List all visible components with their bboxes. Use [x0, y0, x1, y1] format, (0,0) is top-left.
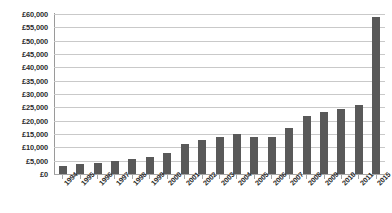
- x-label-slot: 2007: [280, 179, 297, 213]
- y-axis-tick-label: £45,000: [22, 50, 48, 59]
- bar-slot: [263, 14, 280, 174]
- bar-slot: [315, 14, 332, 174]
- bar-slot: [280, 14, 297, 174]
- bar-slot: [298, 14, 315, 174]
- bar-chart: £0£5,000£10,000£15,000£20,000£25,000£30,…: [0, 0, 392, 213]
- bar[interactable]: [216, 137, 224, 174]
- bars-layer: [54, 14, 385, 174]
- y-axis: £0£5,000£10,000£15,000£20,000£25,000£30,…: [0, 0, 52, 213]
- x-label-slot: 1995: [71, 179, 88, 213]
- bar-slot: [350, 14, 367, 174]
- y-axis-tick-label: £10,000: [22, 143, 48, 152]
- x-axis: 1994199519961997199819992000200120022003…: [54, 179, 385, 213]
- bar-slot: [71, 14, 88, 174]
- y-axis-tick-label: £0: [40, 170, 48, 179]
- bar[interactable]: [128, 159, 136, 174]
- y-axis-tick-label: £25,000: [22, 103, 48, 112]
- x-label-slot: 2011: [350, 179, 367, 213]
- x-label-slot: 2005: [246, 179, 263, 213]
- bar-slot: [106, 14, 123, 174]
- bar-slot: [368, 14, 385, 174]
- bar[interactable]: [198, 140, 206, 174]
- plot-area: [54, 14, 385, 174]
- bar-slot: [333, 14, 350, 174]
- x-label-slot: 2003: [211, 179, 228, 213]
- bar[interactable]: [76, 164, 84, 174]
- bar-slot: [141, 14, 158, 174]
- bar[interactable]: [163, 153, 171, 174]
- x-label-slot: 2001: [176, 179, 193, 213]
- x-label-slot: 2000: [159, 179, 176, 213]
- x-label-slot: 1999: [141, 179, 158, 213]
- y-axis-tick-label: £20,000: [22, 116, 48, 125]
- y-axis-tick-label: £30,000: [22, 90, 48, 99]
- y-axis-tick-label: £55,000: [22, 23, 48, 32]
- x-label-slot: 2004: [228, 179, 245, 213]
- bar-slot: [124, 14, 141, 174]
- bar[interactable]: [268, 137, 276, 174]
- bar-slot: [193, 14, 210, 174]
- bar[interactable]: [285, 128, 293, 174]
- bar[interactable]: [355, 105, 363, 174]
- bar[interactable]: [372, 17, 380, 174]
- x-label-slot: 1994: [54, 179, 71, 213]
- bar[interactable]: [337, 109, 345, 174]
- bar[interactable]: [146, 157, 154, 174]
- x-label-slot: 1997: [106, 179, 123, 213]
- bar[interactable]: [320, 112, 328, 174]
- x-label-slot: 2010: [333, 179, 350, 213]
- bar-slot: [89, 14, 106, 174]
- bar-slot: [176, 14, 193, 174]
- bar[interactable]: [111, 161, 119, 174]
- x-label-slot: 2015: [368, 179, 385, 213]
- x-label-slot: 2002: [193, 179, 210, 213]
- y-axis-tick-label: £60,000: [22, 10, 48, 19]
- bar-slot: [159, 14, 176, 174]
- bar[interactable]: [181, 144, 189, 174]
- y-axis-tick-label: £35,000: [22, 76, 48, 85]
- bar[interactable]: [250, 137, 258, 174]
- y-axis-tick-label: £5,000: [26, 156, 48, 165]
- bar[interactable]: [94, 163, 102, 174]
- y-axis-tick-label: £50,000: [22, 36, 48, 45]
- x-label-slot: 1996: [89, 179, 106, 213]
- bar-slot: [211, 14, 228, 174]
- y-axis-tick-label: £40,000: [22, 63, 48, 72]
- bar[interactable]: [303, 116, 311, 174]
- bar[interactable]: [59, 166, 67, 174]
- bar-slot: [54, 14, 71, 174]
- bar[interactable]: [233, 134, 241, 174]
- y-axis-tick-label: £15,000: [22, 130, 48, 139]
- x-label-slot: 2009: [315, 179, 332, 213]
- bar-slot: [228, 14, 245, 174]
- x-label-slot: 2006: [263, 179, 280, 213]
- x-label-slot: 1998: [124, 179, 141, 213]
- bar-slot: [246, 14, 263, 174]
- x-label-slot: 2008: [298, 179, 315, 213]
